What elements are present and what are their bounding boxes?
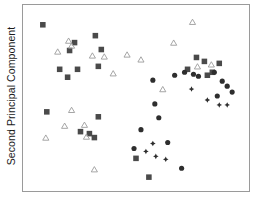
point-circle [191,72,196,77]
point-triangle [171,40,177,45]
point-square [96,114,102,120]
point-diamond [150,141,156,147]
point-triangle [55,49,61,54]
points-svg [23,5,249,191]
point-square [57,67,63,73]
point-triangle [66,38,72,43]
point-square [146,174,152,180]
point-triangle [68,107,74,112]
point-diamond [143,149,149,155]
point-square [133,156,139,162]
point-square [75,67,81,73]
point-circle [138,127,143,132]
point-circle [165,140,170,145]
point-triangle [208,62,214,67]
point-circle [220,79,225,84]
point-triangle [189,19,195,24]
point-circle [182,70,187,75]
y-axis-label-text: Second Principal Component [5,27,17,166]
series-triangle [43,19,215,172]
point-triangle [160,86,166,91]
point-circle [152,101,157,106]
point-circle [172,73,177,78]
point-square [96,64,102,70]
point-circle [179,166,184,171]
plot-area [22,4,250,192]
point-square [78,129,84,135]
point-triangle [194,64,200,69]
point-circle [212,70,217,75]
point-square [194,55,200,61]
point-circle [215,93,220,98]
y-axis-label: Second Principal Component [0,0,22,192]
point-circle [225,84,230,89]
point-triangle [91,167,97,172]
point-diamond [205,97,211,103]
point-square [44,109,50,115]
point-circle [156,115,161,120]
point-square [205,72,211,78]
series-circle [131,70,234,171]
point-circle [230,89,235,94]
point-circle [196,74,201,79]
point-circle [131,146,136,151]
point-diamond [163,157,169,163]
point-triangle [89,53,95,58]
point-triangle [81,122,87,127]
point-square [216,61,222,67]
scatter-plot: Second Principal Component [0,0,261,214]
point-square [93,33,99,39]
point-square [92,135,98,141]
data-points-layer [23,5,249,191]
point-triangle [101,54,107,59]
point-square [65,74,71,80]
point-circle [150,78,155,83]
point-diamond [224,102,230,108]
point-triangle [110,71,116,76]
point-diamond [216,102,222,108]
point-triangle [138,57,144,62]
point-square [40,22,46,28]
series-square [40,22,222,180]
point-diamond [189,86,195,92]
point-square [202,59,208,65]
point-diamond [153,154,159,160]
point-triangle [124,52,130,57]
point-triangle [43,135,49,140]
point-square [99,47,105,53]
point-triangle [62,123,68,128]
